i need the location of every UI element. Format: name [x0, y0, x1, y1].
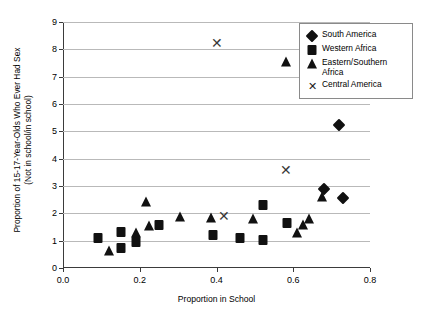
marker-triangle [317, 191, 327, 201]
y-tick-label: 6 [52, 99, 57, 109]
y-tick-mark [59, 241, 63, 242]
legend-key-square-icon [305, 44, 319, 55]
y-tick-label: 2 [52, 208, 57, 218]
y-axis-title: Proportion of 15-17-Year-Olds Who Ever H… [0, 0, 46, 280]
legend-label: Central America [322, 80, 382, 90]
gridline [63, 131, 370, 132]
legend-label: South America [322, 30, 376, 40]
y-tick-label: 8 [52, 44, 57, 54]
y-tick-label: 7 [52, 72, 57, 82]
legend: South AmericaWestern AfricaEastern/South… [299, 23, 413, 99]
y-tick-label: 4 [52, 154, 57, 164]
y-tick-mark [59, 49, 63, 50]
legend-key-triangle-icon [305, 58, 319, 69]
marker-diamond [337, 192, 350, 205]
marker-square [258, 235, 267, 245]
marker-triangle [248, 214, 258, 224]
x-tick-mark [140, 268, 141, 272]
marker-triangle [307, 58, 317, 68]
marker-square [131, 237, 140, 247]
x-tick-label: 0.8 [364, 275, 377, 285]
y-axis-title-line2: (Not in school/in school) [23, 48, 34, 233]
gridline [63, 104, 370, 105]
legend-key-diamond-icon [305, 30, 319, 41]
marker-square [308, 45, 317, 55]
y-tick-label: 1 [52, 236, 57, 246]
y-axis-title-line1: Proportion of 15-17-Year-Olds Who Ever H… [12, 48, 22, 233]
x-axis-title: Proportion in School [63, 294, 370, 304]
marker-square [283, 218, 292, 228]
legend-key-x-icon: ✕ [305, 80, 319, 91]
x-tick-mark [63, 268, 64, 272]
marker-triangle [141, 197, 151, 207]
marker-square [116, 227, 125, 237]
marker-triangle [175, 212, 185, 222]
marker-triangle [206, 213, 216, 223]
marker-triangle [281, 56, 291, 66]
legend-item-central-america[interactable]: ✕Central America [305, 80, 408, 91]
x-tick-label: 0.0 [57, 275, 70, 285]
legend-label: Western Africa [322, 44, 376, 54]
marker-x: ✕ [308, 80, 317, 91]
y-tick-label: 0 [52, 263, 57, 273]
marker-x: ✕ [211, 36, 223, 50]
y-tick-label: 9 [52, 17, 57, 27]
y-tick-mark [59, 104, 63, 105]
marker-square [208, 230, 217, 240]
marker-square [258, 200, 267, 210]
marker-square [116, 243, 125, 253]
x-tick-label: 0.6 [287, 275, 300, 285]
x-tick-mark [293, 268, 294, 272]
scatter-plot-figure: Proportion of 15-17-Year-Olds Who Ever H… [0, 0, 422, 316]
gridline [63, 241, 370, 242]
legend-item-south-america[interactable]: South America [305, 30, 408, 41]
y-tick-mark [59, 131, 63, 132]
y-tick-mark [59, 159, 63, 160]
marker-diamond [306, 29, 319, 42]
x-tick-label: 0.2 [133, 275, 146, 285]
marker-x: ✕ [218, 209, 230, 223]
x-tick-mark [217, 268, 218, 272]
y-tick-label: 5 [52, 126, 57, 136]
y-tick-mark [59, 77, 63, 78]
x-tick-label: 0.4 [210, 275, 223, 285]
marker-diamond [333, 119, 346, 132]
marker-square [93, 233, 102, 243]
marker-square [154, 220, 163, 230]
legend-label: Eastern/Southern Africa [322, 58, 408, 77]
y-axis-line [63, 22, 64, 268]
legend-item-eastern-southern-africa[interactable]: Eastern/Southern Africa [305, 58, 408, 77]
legend-item-western-africa[interactable]: Western Africa [305, 44, 408, 55]
marker-triangle [304, 214, 314, 224]
y-tick-label: 3 [52, 181, 57, 191]
marker-triangle [131, 228, 141, 238]
marker-triangle [104, 246, 114, 256]
marker-square [235, 233, 244, 243]
marker-triangle [144, 221, 154, 231]
y-tick-mark [59, 213, 63, 214]
gridline [63, 159, 370, 160]
marker-x: ✕ [280, 163, 292, 177]
y-tick-mark [59, 22, 63, 23]
x-tick-mark [370, 268, 371, 272]
gridline [63, 213, 370, 214]
y-tick-mark [59, 186, 63, 187]
